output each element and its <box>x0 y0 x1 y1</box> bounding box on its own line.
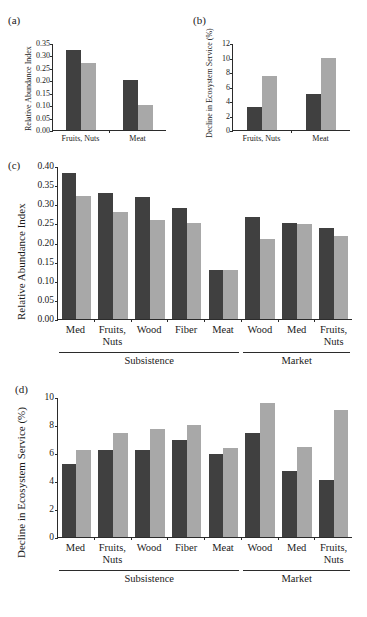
bar-dark <box>123 80 138 130</box>
category-label: Meat <box>205 324 242 336</box>
bar-dark <box>98 450 113 537</box>
bar-dark <box>98 193 113 319</box>
bar-light <box>262 76 277 130</box>
category-label: Med <box>278 324 315 336</box>
bar-group <box>168 167 205 319</box>
bar-light <box>321 58 336 131</box>
panel-b: (b) Decline in Ecosystem Service (%) 024… <box>185 0 367 155</box>
category-label: Fiber <box>168 542 205 554</box>
bar-group <box>110 44 167 130</box>
bar-dark <box>245 433 260 537</box>
panel-c: (c) Relative Abundance Index 0.000.050.1… <box>0 155 367 380</box>
bar-light <box>187 425 202 537</box>
panel-c-bar-groups <box>58 167 352 319</box>
bar-light <box>76 196 91 319</box>
bracket-line <box>59 570 239 571</box>
panel-d-bar-groups <box>58 398 352 537</box>
bar-dark <box>135 450 150 537</box>
bar-group <box>95 167 132 319</box>
bar-dark <box>247 107 262 130</box>
panel-c-letter: (c) <box>8 159 20 171</box>
panel-a-plot: 0.000.050.100.150.200.250.300.35 <box>52 44 166 131</box>
x-axis-tick <box>314 319 315 322</box>
category-label: Fruits, Nuts <box>52 135 109 144</box>
x-axis-tick <box>167 319 168 322</box>
bar-group <box>95 398 132 537</box>
panel-d-ytick-mark <box>55 538 58 539</box>
bar-group <box>58 167 95 319</box>
category-label: Meat <box>291 135 350 144</box>
bar-dark <box>172 440 187 537</box>
bracket-label: Subsistence <box>57 355 241 367</box>
category-label: Fruits, Nuts <box>94 542 131 565</box>
category-label: Wood <box>131 542 168 554</box>
bracket-line <box>243 570 350 571</box>
x-axis-tick <box>291 130 292 133</box>
x-axis-tick <box>278 319 279 322</box>
x-axis-tick <box>241 537 242 540</box>
bar-group <box>205 398 242 537</box>
bar-light <box>113 212 128 319</box>
panel-d-ylabel: Decline in Ecosystem Service (%) <box>15 407 27 558</box>
category-label: Fruits, Nuts <box>315 542 352 565</box>
group-bracket: Market <box>241 570 352 585</box>
bracket-label: Subsistence <box>57 573 241 585</box>
bar-light <box>138 105 153 130</box>
bar-group <box>292 44 351 130</box>
bar-group <box>58 398 95 537</box>
panel-d-letter: (d) <box>15 383 28 395</box>
category-label: Fiber <box>168 324 205 336</box>
x-axis-tick <box>131 319 132 322</box>
category-label: Med <box>57 542 94 554</box>
bar-group <box>168 398 205 537</box>
bar-light <box>113 433 128 537</box>
bar-group <box>242 167 279 319</box>
panel-c-group-brackets: SubsistenceMarket <box>57 352 352 367</box>
panel-a-category-labels: Fruits, NutsMeat <box>52 135 166 144</box>
panel-a-bar-groups <box>53 44 166 130</box>
x-axis-tick <box>94 537 95 540</box>
panel-c-ylabel: Relative Abundance Index <box>15 203 27 320</box>
bar-group <box>205 167 242 319</box>
bar-dark <box>62 464 77 537</box>
x-axis-tick <box>314 537 315 540</box>
bar-dark <box>209 454 224 537</box>
bar-dark <box>135 197 150 319</box>
panel-a-ytick-mark <box>50 131 53 132</box>
bar-group <box>315 398 352 537</box>
bar-light <box>297 224 312 319</box>
category-label: Fruits, Nuts <box>232 135 291 144</box>
x-axis-tick <box>131 537 132 540</box>
panel-b-ytick-mark <box>230 131 233 132</box>
bar-dark <box>319 480 334 537</box>
bar-dark <box>319 228 334 319</box>
bar-light <box>334 236 349 319</box>
bar-light <box>260 403 275 537</box>
panel-a-letter: (a) <box>8 14 20 26</box>
panel-b-plot: 024681012 <box>232 44 350 131</box>
panel-c-category-labels: MedFruits, NutsWoodFiberMeatWoodMedFruit… <box>57 324 352 347</box>
panel-c-ytick-mark <box>55 320 58 321</box>
category-label: Meat <box>205 542 242 554</box>
bar-light <box>81 63 96 130</box>
bracket-label: Market <box>241 355 352 367</box>
panel-b-category-labels: Fruits, NutsMeat <box>232 135 350 144</box>
bar-dark <box>306 94 321 130</box>
panel-b-letter: (b) <box>193 14 206 26</box>
bar-light <box>223 448 238 537</box>
panel-d-plot: 0246810 <box>57 398 352 538</box>
bar-dark <box>172 208 187 319</box>
x-axis-tick <box>94 319 95 322</box>
bar-light <box>76 450 91 537</box>
panel-b-bar-groups <box>233 44 350 130</box>
x-axis-tick <box>204 537 205 540</box>
category-label: Wood <box>131 324 168 336</box>
bar-group <box>132 167 169 319</box>
bar-dark <box>62 173 77 319</box>
bar-light <box>150 429 165 537</box>
panel-d-category-labels: MedFruits, NutsWoodFiberMeatWoodMedFruit… <box>57 542 352 565</box>
category-label: Fruits, Nuts <box>315 324 352 347</box>
panel-b-ylabel: Decline in Ecosystem Service (%) <box>205 28 214 138</box>
panel-a-ylabel: Relative Abundance Index <box>24 46 33 131</box>
category-label: Meat <box>109 135 166 144</box>
